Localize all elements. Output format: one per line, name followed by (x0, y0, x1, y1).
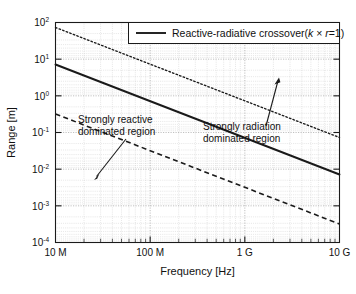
x-tick-label-100m: 100 M (136, 247, 164, 258)
annotation-left-line1: Strongly reactive (78, 114, 153, 125)
annotation-right-line2: dominated region (203, 133, 280, 144)
x-tick-label-10m: 10 M (44, 247, 66, 258)
x-tick-label-1g: 1 G (237, 247, 253, 258)
x-tick-label-10g: 10 G (329, 247, 351, 258)
legend: Reactive-radiative crossover(k × r=1) (129, 23, 345, 44)
x-axis-title: Frequency [Hz] (160, 265, 235, 277)
annotation-right-line1: Strongly radiation (203, 121, 281, 132)
log-log-range-vs-frequency-chart: 102 101 100 10-1 10-2 10-3 10-4 10 M (0, 0, 356, 294)
annotation-left-line2: dominated region (78, 126, 155, 137)
chart-figure: 102 101 100 10-1 10-2 10-3 10-4 10 M (0, 0, 356, 294)
legend-label-crossover: Reactive-radiative crossover(k × r=1) (172, 27, 344, 39)
y-axis-title: Range [m] (5, 107, 17, 158)
